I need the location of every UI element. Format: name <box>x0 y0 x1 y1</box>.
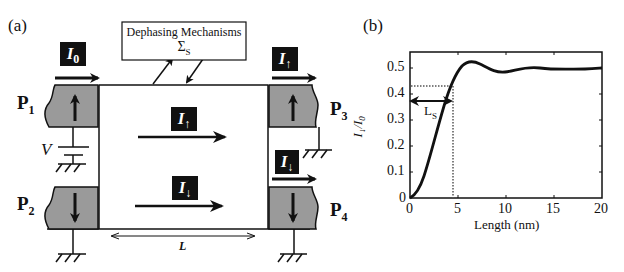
ytick-0.1: 0.1 <box>387 163 405 179</box>
ytick-0.5: 0.5 <box>387 59 405 75</box>
contact-p3 <box>269 85 318 127</box>
ytick-0.2: 0.2 <box>387 137 405 153</box>
contact-p1-label: P1 <box>17 92 35 118</box>
length-label: L <box>179 239 186 254</box>
y-axis-title: I↓/I0 <box>350 116 368 137</box>
data-curve <box>410 62 602 198</box>
ground-icon-p4 <box>278 229 307 262</box>
dephasing-title: Dephasing Mechanisms <box>122 25 246 40</box>
xtick-20: 20 <box>594 201 608 217</box>
contact-p2 <box>45 187 98 229</box>
contact-p4-label: P4 <box>330 199 348 225</box>
panel-a-label: (a) <box>8 16 27 36</box>
ls-annotation: LS <box>424 103 437 121</box>
panel-b-label: (b) <box>363 16 383 36</box>
contact-p3-label: P3 <box>330 98 348 124</box>
xtick-5: 5 <box>454 201 461 217</box>
dephasing-in-arrow-icon <box>187 59 203 82</box>
ytick-0.3: 0.3 <box>387 111 405 127</box>
out-up-current-label: I↑ <box>272 47 298 71</box>
xtick-15: 15 <box>546 201 560 217</box>
channel-up-current-label: I↑ <box>171 107 197 131</box>
dephasing-symbol: ΣS <box>122 39 246 57</box>
xtick-10: 10 <box>498 201 512 217</box>
xtick-0: 0 <box>406 201 413 217</box>
x-axis-title: Length (nm) <box>474 217 539 233</box>
channel-down-current-label: I↓ <box>172 176 198 200</box>
ytick-0: 0 <box>399 190 406 206</box>
contact-p1 <box>45 85 98 127</box>
contact-p4 <box>269 187 318 229</box>
ytick-0.4: 0.4 <box>387 85 405 101</box>
voltage-label: V <box>41 140 51 160</box>
contact-p2-label: P2 <box>17 193 35 219</box>
voltage-source-icon <box>56 127 89 172</box>
out-down-current-label: I↓ <box>275 150 299 174</box>
ground-icon-p2 <box>56 229 86 262</box>
ground-icon-p3 <box>303 127 332 158</box>
input-current-label: I0 <box>60 42 86 66</box>
dephasing-out-arrow-icon <box>153 59 172 84</box>
